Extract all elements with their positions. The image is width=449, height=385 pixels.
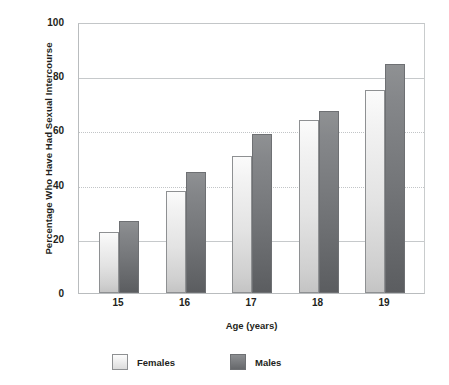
bar-group-age-15 (99, 24, 139, 293)
bar-females-19 (365, 90, 385, 293)
bar-males-15 (119, 221, 139, 293)
legend-label-males: Males (255, 357, 281, 368)
bar-females-17 (232, 156, 252, 293)
bar-chart-figure: Percentage Who Have Had Sexual Intercour… (0, 0, 449, 385)
bar-males-16 (186, 172, 206, 293)
y-tick-label: 60 (53, 126, 64, 136)
plot-area (78, 23, 425, 294)
y-axis-tick-labels: 020406080100 (0, 0, 72, 385)
x-tick-label-15: 15 (98, 297, 138, 308)
x-tick-label-18: 18 (298, 297, 338, 308)
y-tick-label: 20 (53, 235, 64, 245)
legend-item-females: Females (112, 352, 175, 372)
bar-females-15 (99, 232, 119, 293)
bar-males-18 (319, 111, 339, 293)
legend-swatch-female (112, 354, 128, 370)
legend-label-females: Females (137, 357, 175, 368)
bar-group-age-17 (232, 24, 272, 293)
bar-group-age-18 (299, 24, 339, 293)
x-axis-tick-labels: 1516171819 (0, 297, 449, 313)
legend-swatch-male (230, 354, 246, 370)
bar-group-age-16 (166, 24, 206, 293)
legend-item-males: Males (230, 352, 281, 372)
bar-males-19 (385, 64, 405, 293)
x-tick-label-17: 17 (231, 297, 271, 308)
chart-legend: FemalesMales (78, 352, 425, 376)
x-tick-label-19: 19 (364, 297, 404, 308)
x-tick-label-16: 16 (165, 297, 205, 308)
x-axis-title: Age (years) (78, 320, 425, 331)
y-tick-label: 100 (47, 18, 64, 28)
bar-group-age-19 (365, 24, 405, 293)
bar-females-18 (299, 120, 319, 293)
bar-females-16 (166, 191, 186, 293)
y-tick-label: 80 (53, 72, 64, 82)
bar-males-17 (252, 134, 272, 293)
y-tick-label: 40 (53, 181, 64, 191)
